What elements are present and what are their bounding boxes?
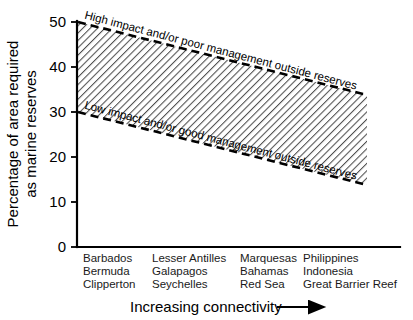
y-tick-labels: 50 40 30 20 10 0 (49, 13, 66, 255)
x-category-labels: Barbados Bermuda Clipperton Lesser Antil… (83, 252, 398, 290)
y-tick-40: 40 (49, 58, 66, 75)
x-axis-title-group: Increasing connectivity (130, 298, 310, 315)
category-group-4-row-2: Indonesia (303, 265, 353, 277)
y-tick-20: 20 (49, 148, 66, 165)
category-group-2-row-1: Lesser Antilles (152, 252, 226, 264)
y-tick-10: 10 (49, 193, 66, 210)
category-group-2-row-2: Galapagos (152, 265, 208, 277)
chart-canvas: High impact and/or poor management outsi… (0, 0, 413, 320)
y-axis-title-line2: as marine reserves (22, 70, 39, 198)
category-group-3-row-1: Marquesas (240, 252, 297, 264)
category-group-4-row-1: Philippines (303, 252, 359, 264)
category-group-3-row-3: Red Sea (240, 278, 285, 290)
y-tick-50: 50 (49, 13, 66, 30)
y-axis (71, 21, 77, 247)
y-axis-title: Percentage of area required as marine re… (4, 41, 39, 228)
category-group-1-row-2: Bermuda (83, 265, 130, 277)
y-tick-30: 30 (49, 103, 66, 120)
y-tick-0: 0 (58, 238, 66, 255)
category-group-1-row-3: Clipperton (83, 278, 135, 290)
category-group-1-row-1: Barbados (83, 252, 132, 264)
y-axis-title-line1: Percentage of area required (4, 41, 21, 228)
category-group-3-row-2: Bahamas (240, 265, 289, 277)
figure-container: High impact and/or poor management outsi… (0, 0, 413, 320)
x-axis-title: Increasing connectivity (130, 298, 282, 315)
category-group-4-row-3: Great Barrier Reef (303, 278, 398, 290)
category-group-2-row-3: Seychelles (152, 278, 208, 290)
